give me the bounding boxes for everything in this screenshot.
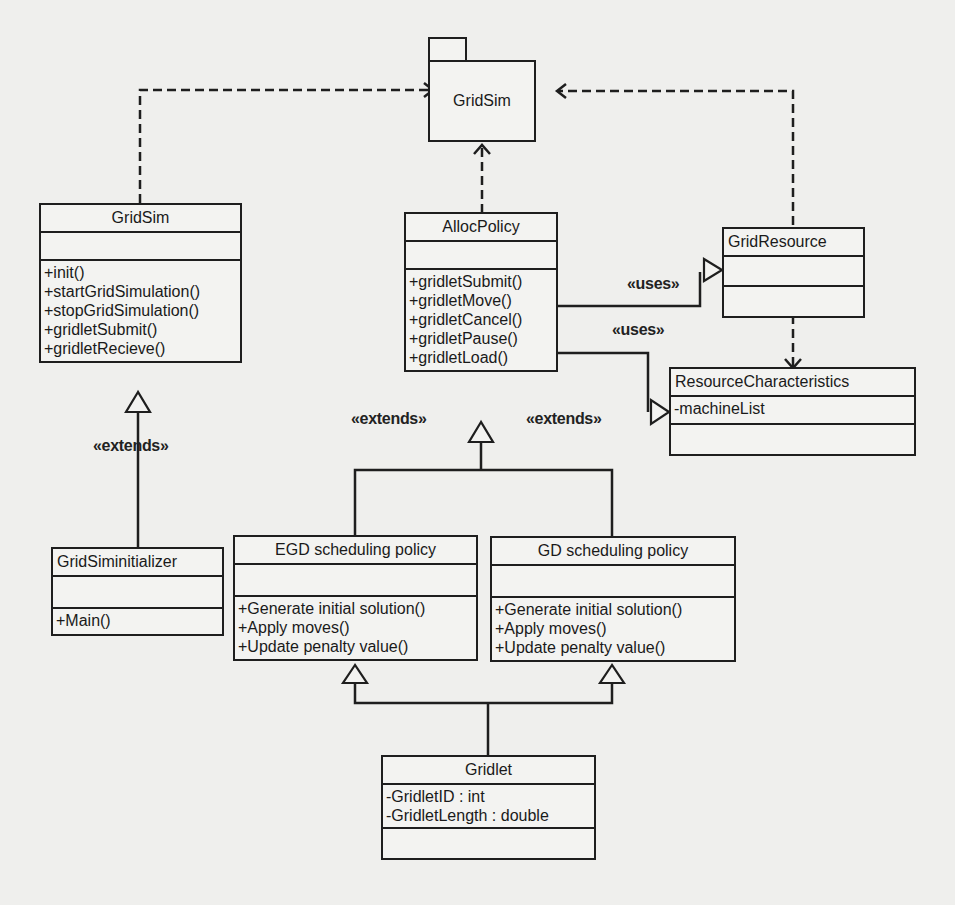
class-attributes (724, 257, 863, 287)
class-operations (383, 829, 594, 858)
class-name: GD scheduling policy (492, 538, 734, 566)
class-name: EGD scheduling policy (235, 537, 476, 565)
package-tab (428, 37, 467, 62)
class-gd-scheduling-policy[interactable]: GD scheduling policy +Generate initial s… (490, 536, 736, 662)
class-gridlet[interactable]: Gridlet -GridletID : int -GridletLength … (381, 755, 596, 860)
class-attributes (53, 577, 222, 609)
generalization-arrowhead (469, 422, 493, 442)
generalization-arrowhead (126, 392, 150, 412)
dependency-gridresource-to-package (558, 91, 793, 225)
class-attributes (492, 566, 734, 598)
operation: +Update penalty value() (495, 638, 731, 657)
operation: +gridletRecieve() (44, 339, 237, 358)
uses-arrowhead (704, 259, 722, 281)
operation: +gridletMove() (409, 291, 553, 310)
operation: +gridletSubmit() (44, 320, 237, 339)
class-name: GridSim (41, 205, 240, 233)
class-attributes (235, 565, 476, 597)
package-gridsim[interactable]: GridSim (428, 60, 536, 142)
class-operations: +gridletSubmit() +gridletMove() +gridlet… (406, 270, 556, 370)
class-operations: +init() +startGridSimulation() +stopGrid… (41, 261, 240, 361)
operation: +Apply moves() (238, 618, 473, 637)
class-attributes: -GridletID : int -GridletLength : double (383, 785, 594, 829)
operation: +startGridSimulation() (44, 282, 237, 301)
class-gridsim[interactable]: GridSim +init() +startGridSimulation() +… (39, 203, 242, 363)
class-resourcecharacteristics[interactable]: ResourceCharacteristics -machineList (669, 367, 916, 456)
operation: +gridletLoad() (409, 348, 553, 367)
class-name: AllocPolicy (406, 214, 556, 242)
uses-arrowhead (651, 400, 669, 424)
operation: +stopGridSimulation() (44, 301, 237, 320)
operation: +gridletSubmit() (409, 272, 553, 291)
class-operations: +Main() (53, 609, 222, 634)
operation: +Main() (56, 611, 219, 630)
class-operations (671, 425, 914, 454)
class-egd-scheduling-policy[interactable]: EGD scheduling policy +Generate initial … (233, 535, 478, 661)
attribute: -GridletID : int (386, 787, 591, 806)
class-operations: +Generate initial solution() +Apply move… (492, 598, 734, 660)
operation: +init() (44, 263, 237, 282)
package-name: GridSim (453, 92, 511, 110)
stereotype-extends-egd: «extends» (351, 410, 427, 428)
class-attributes (406, 242, 556, 270)
dependency-gridsim-to-package (140, 90, 432, 203)
operation: +Update penalty value() (238, 637, 473, 656)
class-name: GridResource (724, 229, 863, 257)
uses-allocpolicy-to-resourcechar (556, 353, 648, 412)
attribute: -GridletLength : double (386, 806, 591, 825)
operation: +Generate initial solution() (495, 600, 731, 619)
stereotype-uses-gridresource: «uses» (627, 275, 679, 293)
class-operations: +Generate initial solution() +Apply move… (235, 597, 476, 659)
operation: +Generate initial solution() (238, 599, 473, 618)
stereotype-uses-resourcechar: «uses» (612, 321, 664, 339)
operation: +gridletCancel() (409, 310, 553, 329)
stereotype-extends-gridsim: «extends» (93, 437, 169, 455)
class-operations (724, 287, 863, 316)
class-allocpolicy[interactable]: AllocPolicy +gridletSubmit() +gridletMov… (404, 212, 558, 372)
class-name: Gridlet (383, 757, 594, 785)
generalization-arrowhead (600, 665, 624, 683)
class-attributes: -machineList (671, 397, 914, 425)
class-gridresource[interactable]: GridResource (722, 227, 865, 318)
generalization-arrowhead (343, 665, 367, 683)
class-gridsiminitializer[interactable]: GridSiminitializer +Main() (51, 547, 224, 636)
operation: +Apply moves() (495, 619, 731, 638)
stereotype-extends-gd: «extends» (526, 410, 602, 428)
class-name: GridSiminitializer (53, 549, 222, 577)
operation: +gridletPause() (409, 329, 553, 348)
class-name: ResourceCharacteristics (671, 369, 914, 397)
attribute: -machineList (674, 399, 911, 418)
class-attributes (41, 233, 240, 261)
generalization-gridlet-to-policies (355, 682, 612, 703)
